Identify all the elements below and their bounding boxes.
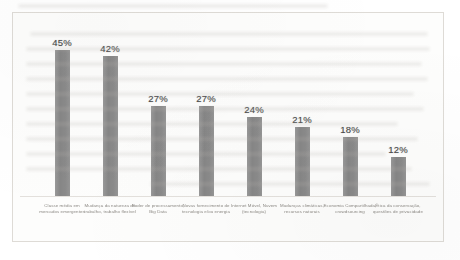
bar-category-label: Internet Móvel, Nuvem (tecnologia) [227, 203, 281, 216]
bar-value-label: 12% [388, 144, 408, 155]
bar-group[interactable]: 42% Mudança da natureza do trabalho, tra… [86, 37, 134, 197]
bar-category-label: Mudanças climáticas, recursos naturais [275, 203, 329, 216]
bar-category-label: Classe média em mercados emergentes [35, 203, 89, 216]
bar-value-label: 42% [100, 43, 120, 54]
bar-value-label: 18% [340, 124, 360, 135]
bar-group[interactable]: 27% Novas fornecimento de tecnologia e/o… [182, 37, 230, 197]
bar-rect[interactable] [151, 106, 166, 197]
bar-rect[interactable] [103, 56, 118, 197]
bar-value-label: 27% [196, 93, 216, 104]
bar-value-label: 21% [292, 114, 312, 125]
bar-category-label: Ética da conservação, questões de privac… [371, 203, 425, 216]
bar-group[interactable]: 18% Economia Compartilhada, crowdsourcin… [326, 37, 374, 197]
bar-rect[interactable] [391, 157, 406, 197]
bar-rect[interactable] [55, 50, 70, 197]
bar-category-label: Poder de processamento, Big Data [131, 203, 185, 216]
bar-group[interactable]: 24% Internet Móvel, Nuvem (tecnologia) [230, 37, 278, 197]
bar-category-label: Novas fornecimento de tecnologia e/ou en… [179, 203, 233, 216]
bar-group[interactable]: 27% Poder de processamento, Big Data [134, 37, 182, 197]
bar-group[interactable]: 21% Mudanças climáticas, recursos natura… [278, 37, 326, 197]
bar-rect[interactable] [295, 127, 310, 197]
bar-chart-plot: 45% Classe média em mercados emergentes … [12, 12, 444, 242]
bar-rect[interactable] [199, 106, 214, 197]
bar-group[interactable]: 45% Classe média em mercados emergentes [38, 37, 86, 197]
bar-value-label: 45% [52, 37, 72, 48]
bar-group[interactable]: 12% Ética da conservação, questões de pr… [374, 37, 422, 197]
bar-value-label: 27% [148, 93, 168, 104]
bar-rect[interactable] [343, 137, 358, 197]
axis-baseline [20, 196, 436, 197]
bar-value-label: 24% [244, 104, 264, 115]
bar-category-label: Mudança da natureza do trabalho, trabalh… [83, 203, 137, 216]
bar-rect[interactable] [247, 117, 262, 197]
bar-category-label: Economia Compartilhada, crowdsourcing [323, 203, 377, 216]
